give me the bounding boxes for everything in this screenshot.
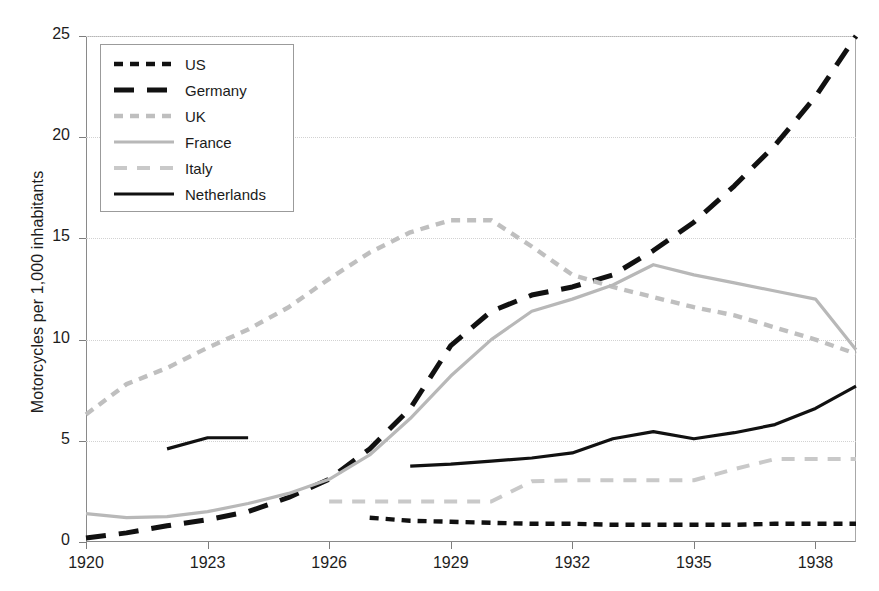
y-axis-label: 0	[24, 531, 70, 549]
x-axis-label: 1935	[659, 554, 729, 572]
y-axis-tick	[79, 542, 86, 543]
y-axis-label: 10	[24, 329, 70, 347]
legend-label: Germany	[185, 83, 247, 98]
x-axis-label: 1926	[294, 554, 364, 572]
chart-legend: USGermanyUKFranceItalyNetherlands	[100, 44, 294, 212]
x-axis-tick	[451, 542, 452, 549]
legend-item-france[interactable]: France	[101, 129, 293, 155]
x-axis-label: 1923	[173, 554, 243, 572]
y-axis-label: 20	[24, 126, 70, 144]
chart-root: Motorcycles per 1,000 inhabitants 051015…	[0, 0, 879, 591]
series-line-italy	[329, 459, 856, 502]
legend-swatch-germany	[113, 83, 175, 97]
legend-item-uk[interactable]: UK	[101, 103, 293, 129]
x-axis-label: 1932	[537, 554, 607, 572]
series-line-uk	[86, 220, 856, 414]
y-axis-tick	[79, 137, 86, 138]
y-axis-tick	[79, 340, 86, 341]
legend-swatch-france	[113, 135, 175, 149]
y-axis-tick	[79, 36, 86, 37]
legend-item-germany[interactable]: Germany	[101, 77, 293, 103]
x-axis-label: 1929	[416, 554, 486, 572]
series-line-netherlands	[167, 438, 248, 449]
legend-swatch-netherlands	[113, 187, 175, 201]
series-line-netherlands	[410, 386, 856, 466]
legend-label: US	[185, 57, 206, 72]
legend-label: Italy	[185, 161, 213, 176]
x-axis-label: 1920	[51, 554, 121, 572]
x-axis-tick	[329, 542, 330, 549]
x-axis-tick	[208, 542, 209, 549]
y-axis-tick	[79, 238, 86, 239]
x-axis-tick	[572, 542, 573, 549]
series-line-france	[86, 265, 856, 518]
y-axis-tick	[79, 441, 86, 442]
x-axis-tick	[694, 542, 695, 549]
legend-item-italy[interactable]: Italy	[101, 155, 293, 181]
legend-label: France	[185, 135, 232, 150]
x-axis-label: 1938	[780, 554, 850, 572]
x-axis-tick	[86, 542, 87, 549]
legend-item-us[interactable]: US	[101, 51, 293, 77]
y-axis-label: 25	[24, 25, 70, 43]
legend-swatch-us	[113, 57, 175, 71]
legend-swatch-italy	[113, 161, 175, 175]
x-axis-tick	[815, 542, 816, 549]
y-axis-label: 15	[24, 227, 70, 245]
legend-label: UK	[185, 109, 206, 124]
series-line-us	[370, 518, 856, 525]
legend-label: Netherlands	[185, 187, 266, 202]
y-axis-title: Motorcycles per 1,000 inhabitants	[29, 32, 47, 552]
y-axis-label: 5	[24, 430, 70, 448]
legend-swatch-uk	[113, 109, 175, 123]
legend-item-netherlands[interactable]: Netherlands	[101, 181, 293, 207]
